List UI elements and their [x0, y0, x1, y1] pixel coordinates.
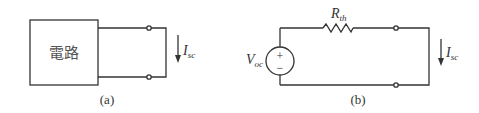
current-label-b: Isc [445, 45, 458, 62]
caption-a: (a) [100, 92, 114, 107]
box-label: 電路 [49, 44, 79, 62]
current-label-a: Isc [182, 43, 195, 60]
terminal-top [147, 26, 151, 30]
source-minus: − [277, 61, 284, 75]
circuit-diagram: 電路 Isc (a) + − Voc Rth Isc (b) [0, 0, 479, 113]
short-circuit-wire [398, 28, 429, 85]
terminal-bottom [394, 83, 398, 87]
figure-b [266, 24, 444, 87]
current-arrow-icon [438, 58, 444, 66]
resistor-icon [323, 24, 353, 32]
current-arrow-icon [175, 55, 181, 63]
terminal-bottom [147, 75, 151, 79]
terminal-top [394, 26, 398, 30]
short-circuit-wire [151, 28, 166, 77]
source-label: Voc [246, 52, 263, 69]
resistor-label: Rth [330, 6, 347, 23]
caption-b: (b) [350, 92, 365, 107]
